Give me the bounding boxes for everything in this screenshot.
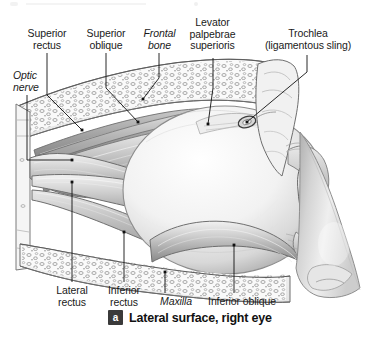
- figure-caption: a Lateral surface, right eye: [108, 310, 272, 325]
- label-trochlea: Trochlea (ligamentous sling): [250, 28, 366, 51]
- figure-caption-text: Lateral surface, right eye: [129, 311, 272, 325]
- label-frontal-bone: Frontal bone: [136, 28, 183, 51]
- label-superior-oblique: Superior oblique: [77, 28, 135, 51]
- label-inferior-rectus: Inferior rectus: [100, 285, 148, 308]
- nose-profile: [296, 132, 360, 298]
- label-levator-palpebrae-superioris: Levator palpebrae superioris: [180, 17, 245, 52]
- label-optic-nerve: Optic nerve: [13, 70, 57, 93]
- label-lateral-rectus: Lateral rectus: [48, 285, 96, 308]
- anatomy-figure: Superior rectus Superior oblique Frontal…: [0, 0, 368, 345]
- label-inferior-oblique: Inferior oblique: [199, 296, 285, 308]
- label-superior-rectus: Superior rectus: [18, 28, 76, 51]
- figure-caption-badge: a: [108, 310, 123, 325]
- label-maxilla: Maxilla: [152, 296, 200, 308]
